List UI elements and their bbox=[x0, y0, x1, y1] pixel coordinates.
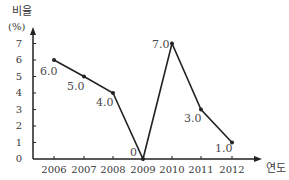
data-point bbox=[82, 75, 86, 79]
data-label: 5.0 bbox=[67, 80, 85, 93]
x-tick-label: 2009 bbox=[130, 164, 155, 175]
data-label: 4.0 bbox=[96, 96, 114, 109]
x-tick-label: 2011 bbox=[188, 164, 213, 175]
y-tick-label: 1 bbox=[16, 137, 22, 148]
x-tick-label: 2012 bbox=[219, 164, 244, 175]
data-label: 1.0 bbox=[215, 142, 233, 155]
y-tick-label: 7 bbox=[16, 38, 22, 49]
y-tick-label: 2 bbox=[16, 120, 22, 131]
y-axis-title: 비율 bbox=[12, 5, 32, 18]
line-chart: 비율 (%) 연도 0 1 2 3 4 5 6 7 2006 2007 2008 bbox=[0, 0, 289, 180]
data-series-line bbox=[54, 44, 232, 160]
data-point bbox=[170, 42, 174, 46]
y-tick-label: 3 bbox=[16, 104, 22, 115]
data-labels: 6.0 5.0 4.0 0 7.0 3.0 1.0 bbox=[40, 38, 233, 159]
data-label: 6.0 bbox=[40, 65, 58, 78]
y-tick-label: 0 bbox=[16, 153, 22, 164]
data-label: 0 bbox=[130, 146, 137, 159]
x-tick-label: 2006 bbox=[41, 164, 66, 175]
y-axis-arrow-icon bbox=[30, 27, 36, 35]
data-point bbox=[52, 58, 56, 62]
x-axis-title: 연도 bbox=[266, 162, 286, 175]
data-point bbox=[111, 91, 115, 95]
x-tick-label: 2008 bbox=[100, 164, 125, 175]
data-point bbox=[199, 108, 203, 112]
x-axis-arrow-icon bbox=[254, 156, 262, 162]
y-tick-label: 5 bbox=[16, 71, 22, 82]
data-label: 7.0 bbox=[152, 38, 170, 51]
y-tick-label: 6 bbox=[16, 54, 22, 65]
data-points bbox=[52, 42, 234, 162]
y-axis-unit: (%) bbox=[8, 21, 25, 32]
data-label: 3.0 bbox=[184, 112, 202, 125]
y-tick-label: 4 bbox=[16, 87, 22, 98]
x-tick-label: 2010 bbox=[159, 164, 184, 175]
x-tick-label: 2007 bbox=[71, 164, 96, 175]
data-point bbox=[141, 157, 145, 161]
